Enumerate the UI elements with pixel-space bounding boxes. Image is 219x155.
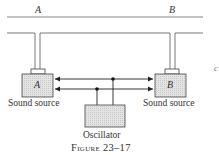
oscillator-box — [85, 105, 125, 127]
left-tube — [35, 33, 40, 69]
source-a-caption: Sound source — [8, 99, 59, 109]
edge-clipped-char: c — [214, 64, 218, 73]
top-label-b: B — [169, 5, 175, 15]
left-tube-cap — [31, 69, 45, 74]
top-label-a: A — [35, 5, 41, 15]
source-a-box-label: A — [34, 80, 40, 90]
right-tube — [170, 33, 175, 69]
figure-caption: Figure 23–17 — [71, 143, 131, 154]
oscillator-caption: Oscillator — [83, 131, 120, 141]
source-b-box-label: B — [167, 80, 173, 90]
right-tube-cap — [165, 69, 179, 74]
source-b-caption: Sound source — [143, 99, 194, 109]
